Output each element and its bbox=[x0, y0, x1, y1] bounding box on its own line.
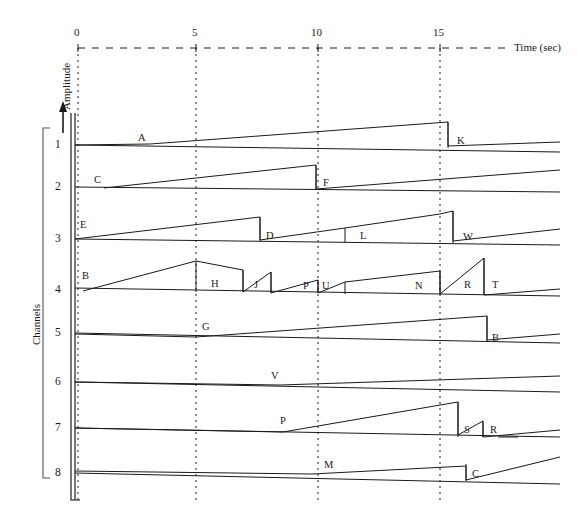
gridline-group bbox=[78, 48, 440, 500]
tick-label-0: 0 bbox=[74, 27, 80, 38]
channel-number-3: 3 bbox=[55, 233, 61, 245]
event-label-R-ch7: R bbox=[490, 425, 497, 436]
event-label-D-ch3: D bbox=[266, 231, 274, 242]
channel-number-1: 1 bbox=[55, 139, 61, 151]
y-axis-title: Amplitude bbox=[60, 63, 72, 110]
event-label-T-ch4: T bbox=[492, 280, 498, 291]
event-label-S-ch7: S bbox=[464, 425, 470, 436]
channels-bracket bbox=[43, 128, 50, 478]
event-label-R-ch4: R bbox=[464, 280, 471, 291]
event-label-C-ch2: C bbox=[94, 175, 101, 186]
event-label-P-ch4: P bbox=[303, 281, 309, 292]
event-label-B-ch5: B bbox=[492, 333, 499, 344]
event-label-F-ch2: F bbox=[323, 178, 329, 189]
channel-number-2: 2 bbox=[55, 181, 61, 193]
event-label-W-ch3: W bbox=[463, 232, 473, 243]
channel-8-trace bbox=[75, 457, 560, 484]
figure-canvas bbox=[0, 0, 577, 530]
event-label-A-ch1: A bbox=[138, 133, 146, 144]
channel-number-5: 5 bbox=[55, 327, 61, 339]
channel-3-envelope bbox=[75, 211, 560, 241]
x-axis-title: Time (sec) bbox=[514, 42, 561, 53]
channel-7-trace bbox=[75, 402, 560, 437]
tick-label-10: 10 bbox=[311, 27, 322, 38]
channel-5-trace bbox=[75, 316, 560, 343]
event-label-L-ch3: L bbox=[360, 231, 366, 242]
event-label-H-ch4: H bbox=[211, 279, 219, 290]
event-label-C-ch8: C bbox=[472, 469, 479, 480]
channel-7-envelope bbox=[75, 402, 560, 437]
tick-label-5: 5 bbox=[192, 27, 198, 38]
event-label-E-ch3: E bbox=[80, 220, 86, 231]
event-label-K-ch1: K bbox=[457, 136, 465, 147]
event-label-G-ch5: G bbox=[202, 322, 210, 333]
channel-number-8: 8 bbox=[55, 467, 61, 479]
event-label-B-ch4: B bbox=[82, 271, 89, 282]
event-label-U-ch4: U bbox=[322, 281, 330, 292]
event-label-M-ch8: M bbox=[324, 460, 333, 471]
channel-number-4: 4 bbox=[55, 284, 61, 296]
event-label-N-ch4: N bbox=[415, 281, 423, 292]
signal-channel-timeline-figure: 0 5 10 15 Time (sec) Amplitude Channels … bbox=[0, 0, 577, 530]
event-label-P-ch7: P bbox=[280, 416, 286, 427]
channel-number-7: 7 bbox=[55, 422, 61, 434]
event-label-V-ch6: V bbox=[271, 371, 279, 382]
channel-number-6: 6 bbox=[55, 376, 61, 388]
event-label-J-ch4: J bbox=[254, 280, 258, 291]
channel-2-envelope bbox=[104, 165, 560, 189]
tick-label-15: 15 bbox=[433, 27, 444, 38]
time-axis-group bbox=[78, 44, 508, 52]
channels-group-label: Channels bbox=[30, 304, 42, 345]
channel-3-baseline bbox=[75, 239, 560, 245]
